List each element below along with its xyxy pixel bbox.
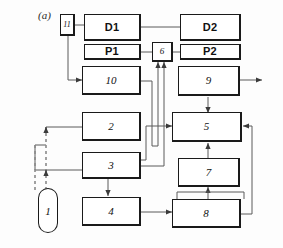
block-d2-label: D2 (203, 22, 218, 33)
link-8-to-5-feedback (241, 126, 252, 214)
block-6-label: 6 (160, 47, 165, 56)
block-5-label: 5 (204, 121, 210, 132)
block-7[interactable]: 7 (178, 158, 240, 187)
block-p1-label: P1 (105, 46, 119, 57)
block-1-label: 1 (45, 205, 51, 217)
block-p2[interactable]: P2 (180, 44, 241, 60)
block-10-label: 10 (106, 75, 117, 86)
block-p1[interactable]: P1 (84, 44, 141, 60)
block-d2[interactable]: D2 (180, 14, 241, 41)
block-1-oval[interactable]: 1 (38, 188, 58, 233)
block-7-label: 7 (206, 167, 212, 178)
block-5[interactable]: 5 (172, 112, 242, 142)
block-4-label: 4 (108, 206, 114, 217)
block-10[interactable]: 10 (82, 66, 141, 95)
block-3[interactable]: 3 (82, 152, 141, 179)
block-8-label: 8 (203, 208, 209, 219)
link-10-to-6 (141, 62, 158, 146)
block-9[interactable]: 9 (178, 66, 240, 96)
block-9-label: 9 (206, 75, 212, 86)
block-6[interactable]: 6 (152, 42, 173, 62)
block-2[interactable]: 2 (82, 112, 141, 141)
block-diagram-figure: (a) 11 D1 D2 P1 P2 6 10 9 2 5 3 7 1 4 (0, 0, 283, 248)
block-11-label: 11 (63, 21, 70, 29)
block-d1-label: D1 (105, 22, 120, 33)
bus-riser (35, 145, 46, 170)
block-8[interactable]: 8 (172, 199, 241, 228)
link-11-to-10 (68, 36, 82, 80)
block-d1[interactable]: D1 (84, 14, 141, 41)
block-2-label: 2 (108, 121, 114, 132)
link-3-to-5 (141, 126, 172, 160)
figure-caption-label: (a) (38, 9, 51, 21)
block-4[interactable]: 4 (82, 197, 141, 226)
block-11[interactable]: 11 (60, 14, 75, 36)
block-3-label: 3 (108, 160, 114, 171)
block-p2-label: P2 (203, 46, 217, 57)
